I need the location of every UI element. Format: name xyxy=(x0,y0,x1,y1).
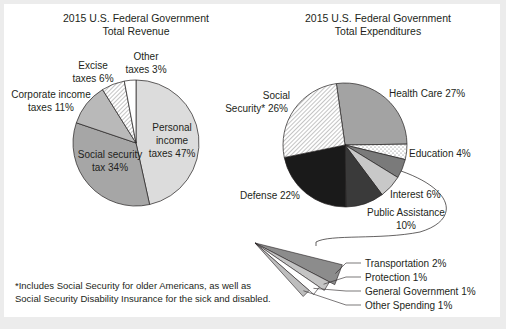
expenditures-pie xyxy=(283,83,407,207)
label-public-assistance-2: 10% xyxy=(396,220,416,231)
label-general-government: General Government 1% xyxy=(365,286,476,297)
leader-line-general-government xyxy=(313,288,361,291)
label-transportation: Transportation 2% xyxy=(365,258,446,269)
label-other-taxes-2: taxes 3% xyxy=(125,64,166,75)
expenditures-chart: 2015 U.S. Federal Government Total Expen… xyxy=(225,12,476,311)
label-excise-1: Excise xyxy=(78,60,108,71)
footnote-line1: *Includes Social Security for older Amer… xyxy=(15,280,251,291)
label-protection: Protection 1% xyxy=(365,272,427,283)
label-social-security-2: Security* 26% xyxy=(225,103,288,114)
label-education: Education 4% xyxy=(409,148,471,159)
label-excise-2: taxes 6% xyxy=(72,73,113,84)
label-interest: Interest 6% xyxy=(390,189,441,200)
label-personal-income-3: taxes 47% xyxy=(149,148,196,159)
expenditures-title-line1: 2015 U.S. Federal Government xyxy=(305,12,451,24)
label-social-security-tax-1: Social security xyxy=(78,149,142,160)
label-social-security-1: Social xyxy=(263,90,290,101)
expenditures-title-line2: Total Expenditures xyxy=(335,25,421,37)
breakout-fan xyxy=(255,243,361,305)
label-defense: Defense 22% xyxy=(240,190,300,201)
label-other-spending: Other Spending 1% xyxy=(365,300,452,311)
label-other-taxes-1: Other xyxy=(133,51,159,62)
label-personal-income-1: Personal xyxy=(152,122,191,133)
label-social-security-tax-2: tax 34% xyxy=(92,162,128,173)
label-corporate-income-1: Corporate income xyxy=(11,89,91,100)
pie-charts-figure: 2015 U.S. Federal Government Total Reven… xyxy=(0,0,506,329)
label-public-assistance-1: Public Assistance xyxy=(367,207,445,218)
footnote-line2: Social Security Disability Insurance for… xyxy=(15,293,271,304)
label-health-care: Health Care 27% xyxy=(389,88,465,99)
pie-slice-social-security xyxy=(283,84,345,158)
label-personal-income-2: income xyxy=(156,135,189,146)
revenue-chart: 2015 U.S. Federal Government Total Reven… xyxy=(11,12,209,206)
label-corporate-income-2: taxes 11% xyxy=(28,102,74,113)
revenue-title-line2: Total Revenue xyxy=(102,25,169,37)
revenue-title-line1: 2015 U.S. Federal Government xyxy=(63,12,209,24)
